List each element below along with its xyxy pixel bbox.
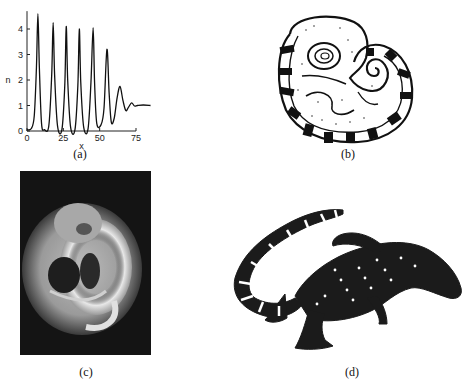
axes (27, 11, 136, 131)
panel-d-illustration (225, 200, 466, 360)
embryo-drawing-icon (262, 6, 422, 146)
panel-d-caption: (d) (332, 365, 372, 380)
y-tick-label: 4 (18, 24, 23, 34)
oscillation-chart: 025507501234xn (0, 0, 165, 150)
x-tick-label: 50 (95, 133, 105, 143)
y-axis-label: n (5, 75, 10, 85)
x-tick-label: 75 (131, 133, 141, 143)
embryo-photo-icon (20, 171, 151, 355)
alligator-icon (225, 200, 466, 360)
y-tick-label: 0 (18, 126, 23, 136)
series-line (27, 14, 151, 135)
panel-c-caption: (c) (66, 365, 106, 380)
panel-c-photo (20, 171, 151, 355)
y-tick-label: 3 (18, 50, 23, 60)
x-tick-label: 0 (24, 133, 29, 143)
panel-b-drawing (262, 6, 422, 146)
y-tick-label: 2 (18, 75, 23, 85)
y-tick-label: 1 (18, 101, 23, 111)
panel-a-chart: 025507501234xn (0, 0, 165, 150)
panel-a-caption: (a) (60, 147, 100, 162)
panel-b-caption: (b) (328, 147, 368, 162)
